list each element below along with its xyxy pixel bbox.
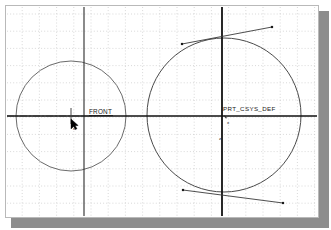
axis-x-label[interactable]: x [227,120,230,125]
sketch-scene[interactable]: FRONTPRT_CSYS_DEFxzo [7,7,317,216]
front-plane-label[interactable]: FRONT [89,108,112,115]
tangent-bottom-end[interactable] [282,202,284,204]
tangent-bottom-start[interactable] [182,189,184,191]
tangent-top-end[interactable] [271,26,273,28]
cad-graphics-window: FRONTPRT_CSYS_DEFxzo [0,0,331,230]
axis-z-label[interactable]: z [219,136,221,141]
csys-label[interactable]: PRT_CSYS_DEF [223,105,276,112]
tangent-line-top[interactable] [182,27,272,44]
sketch-canvas[interactable]: FRONTPRT_CSYS_DEFxzo [7,7,317,216]
tangent-top-start[interactable] [181,43,183,45]
